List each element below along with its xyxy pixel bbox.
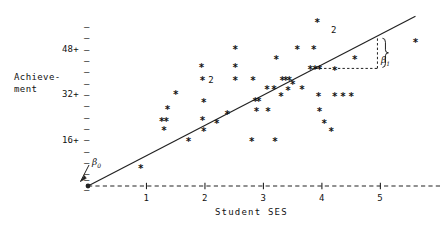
data-point-marker: *: [352, 55, 358, 65]
data-point-marker: *: [232, 45, 238, 55]
data-point-marker: *: [186, 137, 192, 147]
x-axis-tick-label-4: 4: [319, 194, 324, 203]
y-axis-tick-dash: –: [84, 34, 89, 43]
y-axis-tick-dash: –: [84, 23, 89, 32]
data-point-marker: *: [332, 92, 338, 102]
x-axis-title: Student SES: [215, 208, 288, 217]
data-point-marker: *: [314, 18, 320, 28]
data-point-marker: *: [232, 76, 238, 86]
data-point-marker: *: [271, 85, 277, 95]
scatter-plot-figure: Achieve- ment Student SES ––––––––––––––…: [0, 0, 445, 227]
data-point-marker: *: [173, 90, 179, 100]
x-axis-tick-label-5: 5: [377, 194, 382, 203]
y-axis-tick-dash: –: [84, 114, 89, 123]
y-axis-tick-dash: –: [84, 46, 89, 55]
data-point-marker: *: [161, 126, 167, 136]
y-axis-tick-dash: –: [84, 148, 89, 157]
y-axis-tick-label-48: 48+: [62, 45, 79, 54]
data-point-marker: *: [201, 98, 207, 108]
data-point-marker: *: [317, 65, 323, 75]
data-point-marker: *: [253, 107, 259, 117]
y-axis-title-line2: ment: [14, 85, 37, 94]
data-point-marker: *: [165, 105, 171, 115]
data-point-marker: *: [317, 107, 323, 117]
data-point-marker: *: [265, 107, 271, 117]
data-point-marker: *: [311, 45, 317, 55]
y-axis-tick-dash: –: [84, 68, 89, 77]
data-point-marker: *: [340, 92, 346, 102]
y-axis-tick-dash: –: [84, 159, 89, 168]
data-point-marker: *: [224, 110, 230, 120]
data-point-marker: *: [201, 127, 207, 137]
y-axis-tick-dash: –: [84, 57, 89, 66]
data-point-marker: *: [200, 76, 206, 86]
data-point-marker: *: [273, 55, 279, 65]
y-axis-tick-label-16: 16+: [62, 136, 79, 145]
data-point-marker: *: [278, 92, 284, 102]
y-axis-tick-dash: –: [84, 176, 89, 185]
data-point-marker: *: [198, 63, 204, 73]
data-point-marker: *: [250, 76, 256, 86]
x-axis-tick-label-2: 2: [202, 194, 207, 203]
data-point-marker: *: [412, 38, 418, 48]
x-axis-tick-label-3: 3: [260, 194, 265, 203]
data-point-marker: *: [299, 85, 305, 95]
data-point-marker: *: [272, 137, 278, 147]
data-point-overlap-count: 2: [208, 76, 213, 85]
x-axis-tick-label-1: 1: [143, 194, 148, 203]
data-point-marker: *: [200, 116, 206, 126]
data-point-marker: *: [332, 66, 338, 76]
data-point-overlap-count: 2: [331, 26, 336, 35]
data-point-marker: *: [232, 63, 238, 73]
y-axis-tick-label-32: 32+: [62, 90, 79, 99]
y-axis-tick-dash: –: [84, 186, 89, 195]
data-point-marker: *: [294, 45, 300, 55]
data-point-marker: *: [214, 119, 220, 129]
y-axis-title-line1: Achieve-: [14, 73, 61, 82]
y-axis-tick-dash: –: [84, 136, 89, 145]
y-axis-tick-dash: –: [84, 80, 89, 89]
data-point-marker: *: [264, 85, 270, 95]
y-axis-tick-dash: –: [84, 91, 89, 100]
data-point-marker: *: [328, 127, 334, 137]
data-point-marker: *: [315, 92, 321, 102]
data-point-marker: *: [138, 164, 144, 174]
data-point-marker: *: [321, 119, 327, 129]
y-axis-tick-dash: –: [84, 102, 89, 111]
data-point-marker: *: [249, 137, 255, 147]
data-point-marker: *: [285, 86, 291, 96]
beta1-label: β1: [381, 56, 390, 67]
y-axis-tick-dash: –: [84, 125, 89, 134]
data-point-marker: *: [348, 92, 354, 102]
beta0-label: β0: [92, 158, 101, 169]
